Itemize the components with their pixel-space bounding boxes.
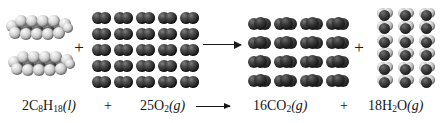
equation-plus-2: + xyxy=(340,99,348,113)
oxygen-atom xyxy=(99,12,111,24)
carbon-dioxide-molecule xyxy=(326,17,349,30)
oxygen-atom xyxy=(121,44,133,56)
water-molecule xyxy=(377,35,393,49)
oxygen-atom xyxy=(400,64,411,75)
water-molecule xyxy=(419,75,435,89)
oxygen-atom xyxy=(379,10,390,21)
oxygen-atom xyxy=(143,76,155,88)
water-molecule xyxy=(377,62,393,76)
oxygen-atom xyxy=(143,28,155,40)
carbon-atom xyxy=(254,74,267,87)
water-molecule-grid xyxy=(374,8,437,89)
carbon-dioxide-molecule xyxy=(274,17,297,30)
carbon-dioxide-molecule xyxy=(248,36,271,49)
water-molecule xyxy=(419,21,435,35)
water-molecule xyxy=(377,75,393,89)
oxygen-atom xyxy=(400,50,411,61)
carbon-dioxide-molecule xyxy=(274,36,297,49)
carbon-dioxide-molecule xyxy=(274,55,297,68)
water-molecule xyxy=(398,8,414,22)
oxygen-atom xyxy=(187,76,199,88)
equation-term-carbon-dioxide: 16CO2(g) xyxy=(253,99,308,115)
carbon-dioxide-molecule xyxy=(326,55,349,68)
oxygen-molecule xyxy=(92,76,111,88)
oxygen-atom xyxy=(143,60,155,72)
water-molecule xyxy=(419,62,435,76)
oxygen-molecule xyxy=(136,28,155,40)
oxygen-atom xyxy=(400,10,411,21)
carbon-dioxide-molecule xyxy=(300,74,323,87)
carbon-dioxide-molecule xyxy=(300,17,323,30)
oxygen-molecule xyxy=(92,12,111,24)
plus-operator-products: + xyxy=(352,39,366,56)
water-molecule xyxy=(419,35,435,49)
oxygen-atom xyxy=(379,64,390,75)
oxygen-molecule xyxy=(136,76,155,88)
water-molecule xyxy=(398,62,414,76)
water-molecule xyxy=(398,21,414,35)
equation-term-octane: 2C8H18(l) xyxy=(22,99,76,115)
oxygen-molecule xyxy=(180,12,199,24)
oxygen-atom xyxy=(99,76,111,88)
octane-molecule xyxy=(8,50,82,78)
oxygen-atom xyxy=(421,50,432,61)
water-molecule xyxy=(377,8,393,22)
oxygen-molecule xyxy=(180,60,199,72)
oxygen-atom xyxy=(187,12,199,24)
carbon-atom xyxy=(254,17,267,30)
water-molecule xyxy=(419,8,435,22)
oxygen-atom xyxy=(400,37,411,48)
oxygen-atom xyxy=(187,28,199,40)
oxygen-molecule xyxy=(92,44,111,56)
carbon-atom xyxy=(254,55,267,68)
carbon-dioxide-molecule xyxy=(248,55,271,68)
water-molecule xyxy=(377,21,393,35)
carbon-atom xyxy=(332,17,345,30)
oxygen-atom xyxy=(165,44,177,56)
oxygen-atom xyxy=(121,28,133,40)
water-molecule xyxy=(398,75,414,89)
hydrogen-atom xyxy=(65,59,75,69)
oxygen-atom xyxy=(143,12,155,24)
hydrogen-atom xyxy=(63,23,73,33)
carbon-atom xyxy=(306,55,319,68)
carbon-atom xyxy=(280,36,293,49)
oxygen-atom xyxy=(400,23,411,34)
oxygen-atom xyxy=(379,50,390,61)
balanced-equation: 2C8H18(l) + 25O2(g) 16CO2(g) + 18H2O(g) xyxy=(0,95,444,119)
equation-term-water: 18H2O(g) xyxy=(368,99,423,115)
water-molecule xyxy=(398,48,414,62)
oxygen-atom xyxy=(165,12,177,24)
oxygen-atom xyxy=(165,28,177,40)
oxygen-molecule xyxy=(158,28,177,40)
water-molecule xyxy=(419,48,435,62)
water-molecule xyxy=(398,35,414,49)
oxygen-atom xyxy=(187,44,199,56)
oxygen-atom xyxy=(121,60,133,72)
carbon-dioxide-molecule xyxy=(248,74,271,87)
oxygen-molecule xyxy=(136,12,155,24)
carbon-dioxide-molecule xyxy=(326,74,349,87)
carbon-atom xyxy=(306,17,319,30)
oxygen-atom xyxy=(165,76,177,88)
reaction-arrow xyxy=(203,44,241,45)
carbon-atom xyxy=(280,74,293,87)
plus-operator-reactants: + xyxy=(72,39,86,56)
carbon-dioxide-molecule xyxy=(300,36,323,49)
oxygen-atom xyxy=(121,76,133,88)
oxygen-atom xyxy=(187,60,199,72)
carbon-atom xyxy=(280,55,293,68)
oxygen-molecule xyxy=(180,28,199,40)
oxygen-atom xyxy=(400,77,411,88)
carbon-atom xyxy=(332,55,345,68)
carbon-dioxide-molecule xyxy=(326,36,349,49)
oxygen-molecule xyxy=(158,12,177,24)
water-molecule xyxy=(377,48,393,62)
equation-plus-1: + xyxy=(104,99,112,113)
oxygen-molecule xyxy=(114,28,133,40)
carbon-atom xyxy=(306,74,319,87)
oxygen-atom xyxy=(99,60,111,72)
octane-molecule xyxy=(6,14,80,42)
carbon-dioxide-molecule xyxy=(274,74,297,87)
equation-arrow xyxy=(196,106,230,107)
